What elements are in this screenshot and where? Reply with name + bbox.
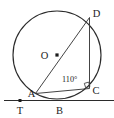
- label-point-d: D: [93, 8, 101, 19]
- label-point-t: T: [17, 105, 24, 116]
- circle-tangent-diagram: O A B C D T 110°: [0, 0, 114, 118]
- tangent-point-dot-t: [19, 99, 22, 102]
- label-point-a: A: [28, 88, 36, 99]
- right-angle-mark-icon: [84, 82, 90, 88]
- label-point-b: B: [56, 105, 63, 116]
- label-angle-110-degrees: 110°: [62, 75, 77, 84]
- label-center-o: O: [41, 50, 49, 61]
- label-point-c: C: [92, 85, 99, 96]
- center-point-dot: [55, 53, 58, 56]
- geometry-figure-container: O A B C D T 110°: [0, 0, 114, 118]
